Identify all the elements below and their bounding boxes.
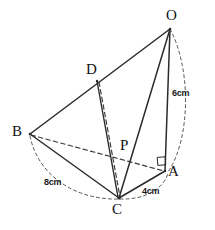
vertex-label-P: P xyxy=(120,138,128,153)
measure-label-bc: 8cm xyxy=(44,178,61,187)
edge-D-C xyxy=(97,81,118,197)
vertex-label-C: C xyxy=(112,202,122,217)
vertex-label-B: B xyxy=(12,124,22,139)
vertex-label-O: O xyxy=(166,8,177,23)
edge-D-C-dashed xyxy=(99,82,120,197)
arc-B-C xyxy=(30,136,118,199)
measure-label-oa: 6cm xyxy=(172,89,189,98)
vertex-label-D: D xyxy=(86,62,97,77)
vertex-dot-O xyxy=(169,28,172,31)
vertex-dot-C xyxy=(118,197,121,200)
arc-O-A xyxy=(168,29,186,172)
edge-B-A-dashed xyxy=(31,135,164,171)
vertex-dot-A xyxy=(164,170,166,172)
edge-O-A xyxy=(165,29,170,171)
vertex-label-A: A xyxy=(168,164,179,179)
vertex-dot-B xyxy=(29,133,32,136)
vertex-dot-D xyxy=(96,80,98,82)
edge-B-O xyxy=(30,29,170,134)
figure-canvas xyxy=(0,0,215,230)
geometry-figure: O D B P A C 6cm 8cm 4cm xyxy=(0,0,215,230)
measure-label-ca: 4cm xyxy=(142,187,159,196)
